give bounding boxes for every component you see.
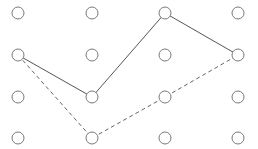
grid-dot-r2-c0[interactable]	[12, 91, 24, 103]
grid-dot-r0-c2[interactable]	[159, 7, 171, 19]
grid-dot-r0-c0[interactable]	[12, 7, 24, 19]
grid-dot-r3-c0[interactable]	[12, 132, 24, 144]
dot-grid	[12, 7, 244, 144]
dashed-connection-line	[18, 55, 238, 138]
grid-dot-r0-c3[interactable]	[232, 7, 244, 19]
grid-dot-r2-c2[interactable]	[159, 91, 171, 103]
grid-dot-r0-c1[interactable]	[86, 7, 98, 19]
grid-dot-r2-c3[interactable]	[232, 91, 244, 103]
grid-dot-r1-c0[interactable]	[12, 49, 24, 61]
dot-grid-pattern-canvas	[0, 0, 258, 149]
solid-connection-line	[18, 13, 238, 97]
grid-dot-r1-c2[interactable]	[159, 49, 171, 61]
grid-dot-r3-c3[interactable]	[232, 132, 244, 144]
grid-dot-r1-c1[interactable]	[86, 49, 98, 61]
grid-dot-r2-c1[interactable]	[86, 91, 98, 103]
grid-dot-r1-c3[interactable]	[232, 49, 244, 61]
grid-dot-r3-c1[interactable]	[86, 132, 98, 144]
grid-dot-r3-c2[interactable]	[159, 132, 171, 144]
